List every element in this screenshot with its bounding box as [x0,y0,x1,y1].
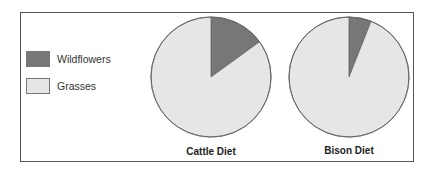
legend-label: Wildflowers [57,53,111,65]
legend: Wildflowers Grasses [26,50,111,104]
grasses-swatch [26,78,50,94]
wildflowers-swatch [26,51,50,67]
pie-slice-grasses [289,17,409,137]
cattle-diet-title: Cattle Diet [151,146,271,157]
legend-item-grasses: Grasses [26,77,111,95]
legend-label: Grasses [57,80,96,92]
legend-item-wildflowers: Wildflowers [26,50,111,68]
bison-diet-title: Bison Diet [289,145,409,156]
cattle-diet-pie [149,15,273,139]
bison-diet-pie [287,15,411,139]
